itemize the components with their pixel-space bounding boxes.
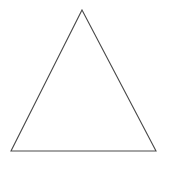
triangle-svg [0,0,178,170]
background-rect [0,0,178,170]
figure-canvas [0,0,178,170]
